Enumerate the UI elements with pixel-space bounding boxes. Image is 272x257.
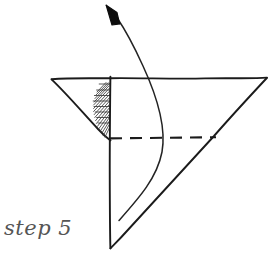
- hatched-wedge-diagonals: [94, 83, 110, 138]
- figure-canvas: step 5: [0, 0, 272, 257]
- top-horizontal-edge: [52, 78, 268, 80]
- vertical-center-line: [110, 77, 111, 248]
- fold-direction-arrow-shaft: [118, 19, 164, 221]
- right-diagonal-edge: [110, 78, 266, 248]
- step-caption: step 5: [4, 216, 72, 240]
